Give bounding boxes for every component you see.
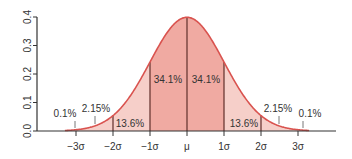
region-label: 13.6% xyxy=(230,118,258,129)
region-label: 34.1% xyxy=(192,74,220,85)
region-label: 0.1% xyxy=(54,108,77,119)
region-label: 2.15% xyxy=(264,103,292,114)
x-tick-label: −1σ xyxy=(141,141,159,152)
x-axis-ticks: −3σ−2σ−1σμ1σ2σ3σ xyxy=(67,131,304,152)
region-label: 34.1% xyxy=(154,74,182,85)
y-tick-label: 0.4 xyxy=(22,10,33,24)
x-tick-label: −2σ xyxy=(104,141,122,152)
x-tick-label: −3σ xyxy=(67,141,85,152)
x-tick-label: 2σ xyxy=(255,141,268,152)
region-label: 0.1% xyxy=(299,108,322,119)
region-label: 2.15% xyxy=(82,103,110,114)
y-tick-label: 0.1 xyxy=(22,95,33,109)
y-tick-label: 0.0 xyxy=(22,124,33,138)
y-tick-label: 0.3 xyxy=(22,38,33,52)
x-tick-label: 1σ xyxy=(218,141,231,152)
y-tick-label: 0.2 xyxy=(22,67,33,81)
x-tick-label: 3σ xyxy=(292,141,305,152)
region-label: 13.6% xyxy=(116,118,144,129)
y-axis-ticks: 0.00.10.20.30.4 xyxy=(22,10,38,138)
chart-canvas: 0.00.10.20.30.4 −3σ−2σ−1σμ1σ2σ3σ 0.1%2.1… xyxy=(0,0,352,159)
normal-distribution-chart: 0.00.10.20.30.4 −3σ−2σ−1σμ1σ2σ3σ 0.1%2.1… xyxy=(0,0,352,159)
x-tick-label: μ xyxy=(184,141,190,152)
